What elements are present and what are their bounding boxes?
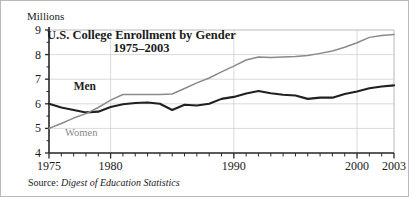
series-label-women: Women bbox=[65, 127, 98, 138]
series-line-men bbox=[49, 85, 394, 112]
series-label-men: Men bbox=[74, 80, 97, 92]
y-tick-label: 4 bbox=[35, 146, 41, 160]
y-tick-label: 8 bbox=[35, 48, 41, 62]
y-tick-label: 9 bbox=[35, 23, 41, 37]
line-chart-plot: 98765419751980199020002003MenWomenU.S. C… bbox=[1, 1, 409, 197]
source-prefix: Source: bbox=[28, 177, 59, 188]
series-line-women bbox=[49, 34, 394, 128]
x-tick-label: 2000 bbox=[345, 159, 369, 173]
source-note: Source: Digest of Education Statistics bbox=[28, 177, 180, 189]
y-tick-label: 7 bbox=[35, 72, 41, 86]
chart-figure: Millions 98765419751980199020002003MenWo… bbox=[0, 0, 409, 197]
source-title: Digest of Education Statistics bbox=[61, 177, 180, 188]
y-tick-label: 5 bbox=[35, 121, 41, 135]
y-tick-label: 6 bbox=[35, 97, 41, 111]
chart-subtitle: 1975–2003 bbox=[113, 41, 169, 55]
x-tick-label: 1980 bbox=[99, 159, 123, 173]
x-tick-label: 2003 bbox=[382, 159, 406, 173]
x-tick-label: 1975 bbox=[37, 159, 61, 173]
x-tick-label: 1990 bbox=[222, 159, 246, 173]
